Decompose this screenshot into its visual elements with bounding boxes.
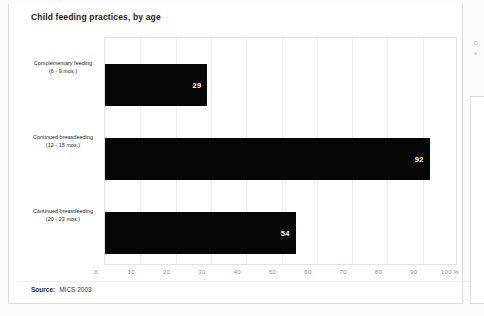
category-label-3: Continued breastfeeding(20 - 23 mos.): [27, 207, 99, 223]
x-tick-10: 10: [128, 269, 135, 275]
source-label: Source:: [31, 286, 55, 293]
x-tick-80: 80: [375, 269, 382, 275]
x-tick-50: 50: [269, 269, 276, 275]
plot-area: 299254: [104, 37, 457, 265]
x-tick-0: 0: [94, 269, 98, 275]
footer-divider: [18, 281, 471, 282]
category-label-line-2: (12 - 15 mos.): [27, 141, 99, 149]
adjacent-card-cutoff: [470, 96, 484, 304]
x-tick-90: 90: [410, 269, 417, 275]
source-note: Source:MICS 2003: [31, 286, 92, 293]
x-tick-30: 30: [198, 269, 205, 275]
x-tick-100: 100 %: [441, 269, 459, 275]
chart-card: Child feeding practices, by age 299254 C…: [8, 4, 463, 304]
x-tick-70: 70: [340, 269, 347, 275]
cutoff-text-line-2: a: [474, 48, 484, 58]
bar-3: 54: [105, 212, 296, 254]
source-value: MICS 2003: [55, 286, 92, 293]
category-label-line-1: Complementary feeding: [27, 59, 99, 67]
page-title: Child feeding practices, by age: [31, 12, 161, 22]
category-label-line-2: (6 - 9 mos.): [27, 67, 99, 75]
screenshot-root: Child feeding practices, by age 299254 C…: [0, 0, 484, 316]
cutoff-text-fragment: D a: [474, 38, 484, 64]
cutoff-text-line-1: D: [474, 38, 484, 48]
bar-value-label-3: 54: [281, 229, 290, 238]
x-tick-40: 40: [234, 269, 241, 275]
bar-1: 29: [105, 64, 207, 106]
category-label-line-2: (20 - 23 mos.): [27, 215, 99, 223]
category-label-line-1: Continued breastfeeding: [27, 133, 99, 141]
category-label-line-1: Continued breastfeeding: [27, 207, 99, 215]
x-tick-60: 60: [304, 269, 311, 275]
bar-value-label-1: 29: [192, 81, 201, 90]
x-tick-20: 20: [163, 269, 170, 275]
bar-2: 92: [105, 138, 430, 180]
category-label-1: Complementary feeding(6 - 9 mos.): [27, 59, 99, 75]
bar-value-label-2: 92: [415, 155, 424, 164]
category-label-2: Continued breastfeeding(12 - 15 mos.): [27, 133, 99, 149]
